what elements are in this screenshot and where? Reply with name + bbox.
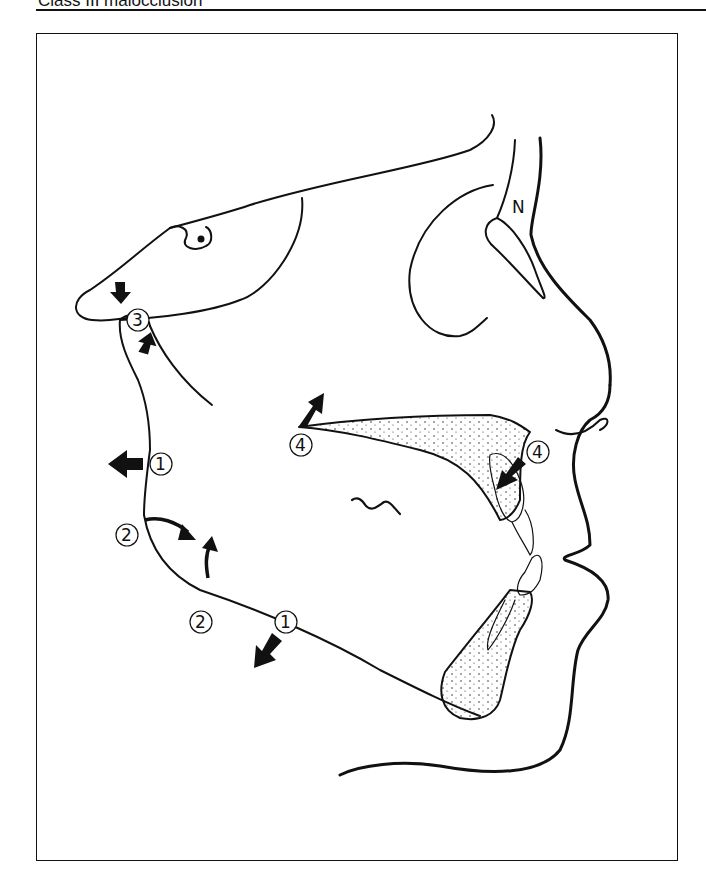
- palatal-plane: [299, 415, 530, 520]
- occlusal-squiggle: [352, 498, 400, 514]
- arrow-up-right-icon: [299, 393, 324, 428]
- arrow-down-icon: [110, 282, 131, 304]
- curved-arrow-up-head: [202, 536, 218, 552]
- marker-1-label: 1: [155, 454, 166, 474]
- arrow-left-icon: [108, 450, 143, 478]
- cephalometric-tracing: 3 1 2 2 1 4 4 N: [0, 0, 706, 886]
- arrow-up-icon: [135, 330, 159, 356]
- nasal-cavity-shape: [486, 218, 545, 298]
- marker-1-label: 1: [280, 612, 291, 632]
- marker-4-label: 4: [532, 442, 543, 462]
- nostril: [556, 419, 608, 435]
- orbit: [409, 185, 493, 336]
- lower-incisor-crown: [518, 555, 542, 595]
- marker-2-label: 2: [195, 612, 206, 632]
- marker-3-label: 3: [132, 310, 143, 330]
- nasion-label: N: [512, 197, 525, 217]
- sella-turcica: [170, 226, 211, 248]
- condyle-outline: [76, 228, 170, 321]
- curved-arrow-up: [206, 545, 210, 578]
- arrow-down-left-icon: [254, 633, 282, 668]
- marker-2-label: 2: [121, 525, 132, 545]
- marker-4-label: 4: [295, 435, 306, 455]
- nasal-bone-outer: [531, 138, 610, 385]
- coronoid: [150, 326, 212, 405]
- symphysis: [441, 590, 532, 719]
- cranial-base-line: [170, 115, 494, 228]
- sella-point: [199, 237, 204, 242]
- upper-incisor-crown: [512, 510, 533, 555]
